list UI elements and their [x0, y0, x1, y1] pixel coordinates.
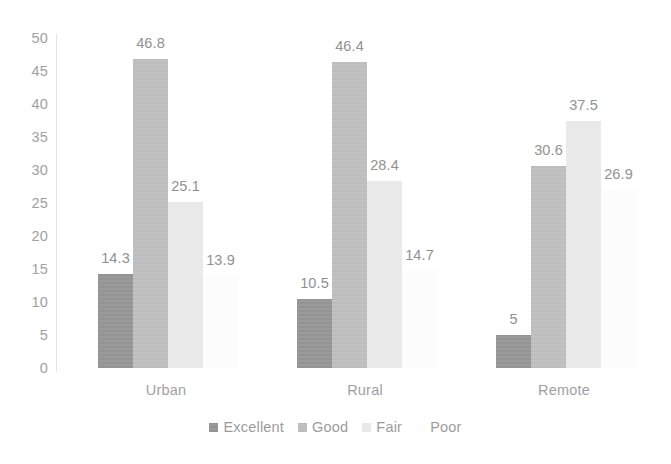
y-axis-tick-label: 25 [31, 195, 48, 211]
bar-value-label: 46.4 [335, 38, 364, 54]
bar-value-label: 26.9 [604, 166, 633, 182]
bar-value-label: 28.4 [370, 157, 399, 173]
plot-area: 14.346.825.113.9Urban10.546.428.414.7Rur… [57, 38, 657, 368]
y-axis-tick-label: 35 [31, 129, 48, 145]
legend-swatch-icon [298, 423, 307, 432]
bar-fair-urban [168, 202, 203, 368]
y-axis-tick-label: 50 [31, 30, 48, 46]
legend-item-good[interactable]: Good [298, 419, 348, 435]
y-axis: 05101520253035404550 [0, 38, 48, 368]
legend-swatch-icon [416, 423, 425, 432]
chart-legend: ExcellentGoodFairPoor [0, 419, 671, 435]
bar-excellent-rural [297, 299, 332, 368]
legend-swatch-icon [362, 423, 371, 432]
bar-good-remote [531, 166, 566, 368]
bar-good-rural [332, 62, 367, 368]
y-axis-tick-label: 5 [40, 327, 48, 343]
legend-item-fair[interactable]: Fair [362, 419, 402, 435]
legend-label: Excellent [223, 419, 284, 435]
bar-poor-urban [203, 276, 238, 368]
legend-item-poor[interactable]: Poor [416, 419, 461, 435]
legend-label: Good [312, 419, 348, 435]
bar-value-label: 5 [509, 311, 517, 327]
x-axis-category-label: Urban [146, 382, 187, 398]
bar-fair-remote [566, 121, 601, 369]
bar-poor-remote [601, 190, 636, 368]
bar-excellent-urban [98, 274, 133, 368]
bar-fair-rural [367, 181, 402, 368]
bar-value-label: 14.7 [405, 247, 434, 263]
bar-excellent-remote [496, 335, 531, 368]
legend-label: Poor [430, 419, 461, 435]
legend-item-excellent[interactable]: Excellent [209, 419, 284, 435]
y-axis-tick-label: 10 [31, 294, 48, 310]
bar-value-label: 25.1 [171, 178, 200, 194]
y-axis-tick-label: 20 [31, 228, 48, 244]
y-axis-tick-label: 40 [31, 96, 48, 112]
bar-value-label: 37.5 [569, 97, 598, 113]
bar-value-label: 10.5 [300, 275, 329, 291]
bar-value-label: 46.8 [136, 35, 165, 51]
bar-value-label: 30.6 [534, 142, 563, 158]
legend-swatch-icon [209, 423, 218, 432]
bar-value-label: 14.3 [101, 250, 130, 266]
x-axis-category-label: Rural [347, 382, 383, 398]
y-axis-tick-label: 30 [31, 162, 48, 178]
bar-value-label: 13.9 [206, 252, 235, 268]
y-axis-tick-label: 15 [31, 261, 48, 277]
bar-poor-rural [402, 271, 437, 368]
bar-chart: 05101520253035404550 14.346.825.113.9Urb… [0, 0, 671, 464]
y-axis-tick-label: 45 [31, 63, 48, 79]
x-axis-category-label: Remote [538, 382, 590, 398]
legend-label: Fair [376, 419, 402, 435]
y-axis-tick-label: 0 [40, 360, 48, 376]
bar-good-urban [133, 59, 168, 368]
